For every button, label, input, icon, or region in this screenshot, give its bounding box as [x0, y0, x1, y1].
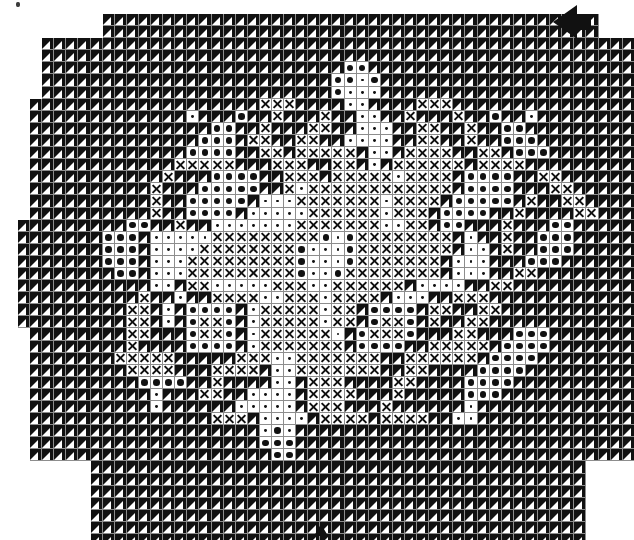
pattern-cell	[272, 413, 284, 425]
pattern-cell	[78, 244, 90, 256]
pattern-cell	[199, 486, 211, 498]
pattern-cell	[320, 135, 332, 147]
pattern-cell	[272, 461, 284, 473]
pattern-cell	[103, 474, 115, 486]
pattern-cell	[54, 389, 66, 401]
pattern-cell	[151, 449, 163, 461]
pattern-cell	[332, 461, 344, 473]
pattern-cell	[345, 461, 357, 473]
pattern-cell	[514, 26, 526, 38]
pattern-cell	[175, 389, 187, 401]
pattern-cell	[345, 38, 357, 50]
pattern-cell-empty-area	[599, 522, 611, 534]
pattern-cell	[236, 159, 248, 171]
pattern-cell	[478, 328, 490, 340]
pattern-cell	[308, 244, 320, 256]
pattern-cell	[526, 353, 538, 365]
pattern-cell	[574, 268, 586, 280]
pattern-cell	[103, 220, 115, 232]
pattern-row	[18, 135, 634, 147]
pattern-cell	[139, 38, 151, 50]
pattern-cell	[175, 135, 187, 147]
pattern-cell	[66, 135, 78, 147]
pattern-cell	[54, 99, 66, 111]
pattern-cell	[212, 425, 224, 437]
pattern-cell	[526, 62, 538, 74]
pattern-cell	[514, 304, 526, 316]
pattern-cell	[562, 437, 574, 449]
pattern-cell	[405, 159, 417, 171]
pattern-cell	[151, 365, 163, 377]
pattern-cell	[574, 425, 586, 437]
pattern-cell	[369, 522, 381, 534]
pattern-cell	[369, 268, 381, 280]
pattern-cell	[574, 377, 586, 389]
pattern-cell	[139, 74, 151, 86]
pattern-cell	[236, 413, 248, 425]
pattern-cell	[236, 534, 248, 540]
pattern-cell-empty-area	[54, 534, 66, 540]
pattern-cell	[478, 232, 490, 244]
pattern-cell	[381, 268, 393, 280]
pattern-cell	[54, 123, 66, 135]
pattern-cell	[526, 256, 538, 268]
pattern-cell	[260, 292, 272, 304]
pattern-cell	[78, 449, 90, 461]
pattern-cell	[514, 437, 526, 449]
pattern-cell	[115, 99, 127, 111]
pattern-cell	[320, 510, 332, 522]
pattern-cell	[538, 534, 550, 540]
pattern-cell	[453, 425, 465, 437]
pattern-cell	[91, 401, 103, 413]
pattern-cell	[574, 159, 586, 171]
pattern-cell	[78, 328, 90, 340]
pattern-cell	[272, 510, 284, 522]
pattern-cell	[369, 474, 381, 486]
pattern-cell	[562, 147, 574, 159]
pattern-cell	[526, 510, 538, 522]
pattern-cell	[248, 135, 260, 147]
pattern-cell	[272, 437, 284, 449]
pattern-cell	[139, 413, 151, 425]
pattern-cell	[538, 486, 550, 498]
pattern-cell	[236, 353, 248, 365]
pattern-cell-empty-area	[18, 135, 30, 147]
pattern-cell	[175, 510, 187, 522]
pattern-cell	[465, 316, 477, 328]
pattern-cell	[187, 498, 199, 510]
pattern-cell	[441, 474, 453, 486]
pattern-cell	[127, 486, 139, 498]
pattern-cell	[586, 171, 598, 183]
pattern-cell	[550, 123, 562, 135]
pattern-cell	[320, 365, 332, 377]
pattern-cell	[586, 62, 598, 74]
pattern-cell	[272, 38, 284, 50]
pattern-cell	[151, 232, 163, 244]
pattern-cell	[453, 341, 465, 353]
pattern-cell	[332, 99, 344, 111]
pattern-cell	[514, 50, 526, 62]
pattern-cell	[224, 486, 236, 498]
pattern-cell	[502, 341, 514, 353]
pattern-cell	[175, 474, 187, 486]
pattern-cell	[163, 292, 175, 304]
pattern-cell	[441, 111, 453, 123]
pattern-cell	[526, 123, 538, 135]
pattern-cell	[332, 159, 344, 171]
pattern-cell	[441, 365, 453, 377]
pattern-cell	[490, 353, 502, 365]
pattern-cell	[308, 147, 320, 159]
pattern-cell	[357, 498, 369, 510]
pattern-cell	[381, 171, 393, 183]
pattern-cell	[502, 522, 514, 534]
pattern-cell	[308, 220, 320, 232]
pattern-cell	[393, 292, 405, 304]
pattern-cell	[538, 14, 550, 26]
pattern-cell	[599, 87, 611, 99]
pattern-cell	[550, 280, 562, 292]
pattern-cell-empty-area	[611, 486, 623, 498]
pattern-cell	[574, 195, 586, 207]
pattern-cell	[574, 341, 586, 353]
pattern-cell	[212, 401, 224, 413]
pattern-cell	[417, 232, 429, 244]
